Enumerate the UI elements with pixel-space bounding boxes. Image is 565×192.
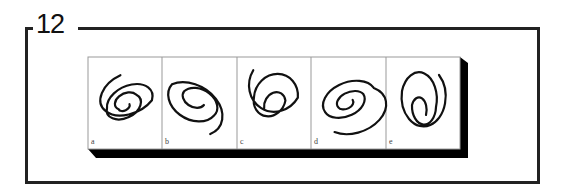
spiral-panel-strip	[0, 0, 565, 192]
panel-label-d: d	[314, 137, 318, 146]
panel-label-e: e	[389, 137, 393, 146]
strip-background	[88, 57, 460, 149]
panel-label-a: a	[91, 137, 95, 146]
panel-label-b: b	[165, 137, 169, 146]
panel-label-c: c	[240, 137, 244, 146]
